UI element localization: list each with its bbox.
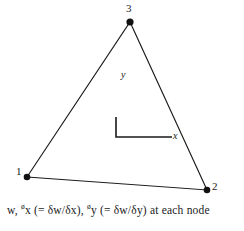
node-marker-1 [24, 174, 31, 181]
node-marker-2 [204, 187, 211, 194]
node-label-2: 2 [212, 181, 218, 192]
caption-tail: at each node [150, 204, 210, 216]
node-marker-3 [126, 18, 133, 25]
figure-root: 1 2 3 y x w, øx (= δw/δx), øy (= δw/δy) … [0, 0, 244, 231]
x-axis-label: x [173, 131, 177, 141]
caption-paren-2: (= δw/δy) [97, 204, 150, 216]
y-axis-label: y [121, 70, 125, 80]
caption-paren-1: (= δw/δx), [31, 204, 87, 216]
node-label-3: 3 [126, 3, 132, 14]
triangular-element-diagram [0, 0, 244, 231]
figure-caption: w, øx (= δw/δx), øy (= δw/δy) at each no… [7, 203, 239, 217]
triangle-element-outline [27, 22, 207, 190]
coordinate-axes [116, 117, 172, 137]
caption-part-w: w, [7, 204, 21, 216]
node-label-1: 1 [16, 166, 22, 177]
